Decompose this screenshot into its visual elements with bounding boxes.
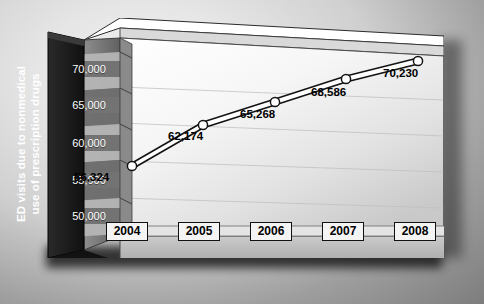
data-label-2006: 65,268 [240,108,275,120]
data-label-2004: 56,324 [74,171,109,183]
data-label-2007: 68,586 [311,86,346,98]
x-axis-label-2005: 2005 [178,222,220,241]
y-axis-title-text: ED visits due to nonmedical use of presc… [15,41,42,247]
y-tick-label-50000: 50,000 [58,209,120,223]
data-label-2005: 62,174 [168,130,203,142]
chart-canvas: ED visits due to nonmedical use of presc… [0,0,484,304]
x-axis-label-2007: 2007 [322,222,364,241]
y-tick-label-70000: 70,000 [58,62,120,76]
data-label-2008: 70,230 [383,67,418,79]
x-axis-label-2006: 2006 [250,222,292,241]
x-axis-label-2004: 2004 [106,222,148,241]
y-tick-label-60000: 60,000 [58,136,120,150]
x-axis-label-2008: 2008 [394,222,436,241]
y-tick-label-65000: 65,000 [58,98,120,112]
